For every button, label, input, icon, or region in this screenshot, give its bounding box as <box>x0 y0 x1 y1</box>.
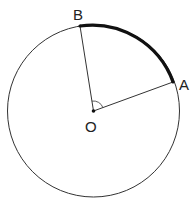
arc-ab <box>80 25 173 82</box>
radius-oa <box>94 82 174 111</box>
point-o <box>92 109 96 113</box>
point-b <box>78 24 81 27</box>
radius-ob <box>80 26 94 111</box>
angle-mark <box>92 101 103 108</box>
label-o: O <box>85 118 97 135</box>
label-a: A <box>179 76 189 93</box>
circle-diagram: O A B <box>0 0 193 215</box>
diagram-canvas: O A B <box>0 0 193 215</box>
label-b: B <box>73 6 83 23</box>
point-a <box>171 80 174 83</box>
